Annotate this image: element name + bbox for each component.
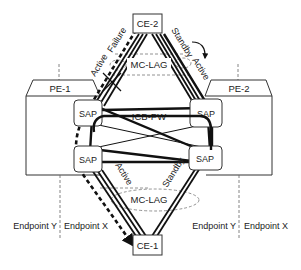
endpoint-x-left: Endpoint X (64, 221, 108, 231)
endpoint-y-right: Endpoint Y (192, 221, 236, 231)
endpoint-y-left: Endpoint Y (13, 221, 57, 231)
mc-lag-icb-pw-diagram: PE-1 PE-2 (0, 0, 301, 270)
pe-1-label: PE-1 (49, 83, 70, 94)
mc-lag-bottom-label: MC-LAG (131, 194, 168, 205)
svg-text:SAP: SAP (79, 155, 97, 165)
top-left-active-label: Active (88, 52, 109, 78)
pe-2-label: PE-2 (228, 83, 249, 94)
ce-2-device: CE-2 (133, 14, 162, 33)
svg-text:SAP: SAP (196, 154, 214, 164)
endpoint-x-right: Endpoint X (244, 221, 288, 231)
sap-pe-1-top: SAP (74, 100, 102, 126)
svg-text:SAP: SAP (79, 109, 97, 119)
mc-lag-top-label: MC-LAG (131, 59, 168, 70)
sap-pe-2-bottom: SAP (189, 146, 222, 170)
ce-1-device: CE-1 (133, 235, 162, 255)
bottom-left-active-label: Active (113, 161, 134, 187)
bottom-right-standby-label: Standby (160, 155, 186, 189)
svg-text:CE-2: CE-2 (137, 18, 159, 29)
sap-pe-2-top: SAP (190, 99, 222, 127)
svg-text:CE-1: CE-1 (137, 240, 159, 251)
top-right-active-label: Active (190, 56, 211, 82)
sap-pe-1-bottom: SAP (74, 146, 102, 172)
